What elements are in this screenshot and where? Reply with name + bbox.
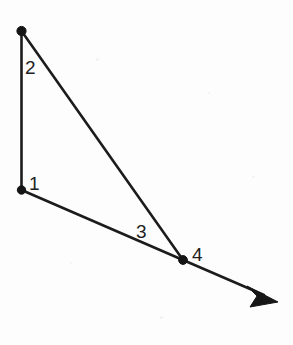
node-label-2: 2 xyxy=(25,57,36,78)
vertex-dot-top xyxy=(17,26,26,35)
vertex-dot-junction xyxy=(179,256,188,265)
arrow-head-icon xyxy=(247,286,278,307)
vertex-dot-left xyxy=(17,186,25,194)
diagram-canvas: 2 1 3 4 xyxy=(0,0,293,345)
node-label-1: 1 xyxy=(29,173,40,194)
node-label-3: 3 xyxy=(136,221,147,242)
node-label-4: 4 xyxy=(192,244,203,265)
diagram-svg: 2 1 3 4 xyxy=(0,0,293,345)
